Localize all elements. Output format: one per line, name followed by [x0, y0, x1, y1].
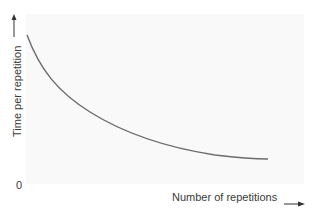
x-axis-label: Number of repetitions — [172, 191, 277, 203]
y-axis-label: Time per repetition — [11, 46, 23, 137]
y-axis-arrow-icon — [10, 14, 18, 42]
origin-label: 0 — [16, 179, 22, 191]
x-axis-arrow-icon — [284, 194, 306, 212]
learning-curve — [0, 0, 324, 212]
